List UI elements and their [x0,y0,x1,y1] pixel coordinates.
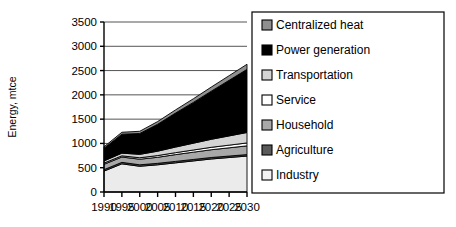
legend-label-power-generation: Power generation [276,43,370,57]
chart-canvas: 0500100015002000250030003500 19901995200… [0,0,456,227]
legend-swatch-power-generation [262,45,272,55]
chart-legend: Centralized heatPower generationTranspor… [252,12,444,193]
legend-swatch-agriculture [262,145,272,155]
y-axis-ticks: 0500100015002000250030003500 [71,16,104,198]
legend-label-centralized-heat: Centralized heat [276,18,364,32]
legend-label-agriculture: Agriculture [276,143,334,157]
legend-label-service: Service [276,93,316,107]
y-tick-label: 3500 [71,16,97,28]
legend-swatch-centralized-heat [262,20,272,30]
legend-swatch-household [262,120,272,130]
legend-swatch-industry [262,170,272,180]
legend-swatch-service [262,95,272,105]
x-tick-label: 2030 [234,201,260,213]
y-tick-label: 2500 [71,65,97,77]
legend-label-transportation: Transportation [276,68,353,82]
x-axis-ticks: 199019952000200520102015202020252030 [91,192,260,213]
stacked-area-chart: 0500100015002000250030003500 19901995200… [0,0,456,227]
legend-swatch-transportation [262,70,272,80]
y-tick-label: 500 [78,162,97,174]
y-tick-label: 1500 [71,113,97,125]
legend-label-household: Household [276,118,333,132]
y-tick-label: 1000 [71,137,97,149]
y-tick-label: 2000 [71,89,97,101]
legend-label-industry: Industry [276,168,319,182]
y-tick-label: 0 [91,186,97,198]
y-axis-title: Energy, mtce [6,76,18,137]
y-tick-label: 3000 [71,40,97,52]
